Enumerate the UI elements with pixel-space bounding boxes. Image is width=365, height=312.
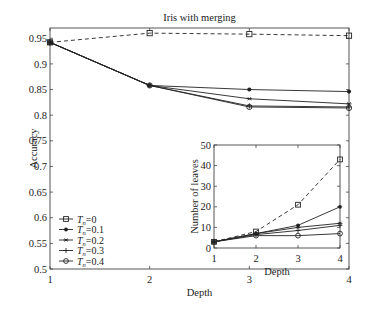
series-t-n-0-4 bbox=[47, 40, 351, 111]
chart-title: Iris with merging bbox=[163, 12, 236, 23]
x-tick-label: 4 bbox=[337, 253, 343, 264]
series-t-n-0 bbox=[47, 31, 351, 45]
y-tick-label: 0.8 bbox=[34, 110, 47, 121]
star-marker-icon bbox=[247, 87, 251, 91]
y-tick-label: 0.55 bbox=[29, 238, 47, 249]
y-tick-label: 40 bbox=[201, 160, 212, 171]
legend: Tn=0Tn=0.1Tn=0.2Tn=0.3Tn=0.4 bbox=[59, 214, 104, 268]
x-tick-label: 2 bbox=[253, 253, 258, 264]
x-axis-label: Depth bbox=[264, 266, 290, 277]
y-tick-label: 0.9 bbox=[34, 59, 47, 70]
accuracy-chart: 12340.50.550.60.650.70.750.80.850.90.95I… bbox=[0, 0, 365, 312]
y-tick-label: 0.85 bbox=[29, 84, 47, 95]
x-marker-icon bbox=[64, 239, 69, 242]
x-tick-label: 4 bbox=[346, 274, 352, 285]
plus-marker-icon bbox=[64, 248, 69, 253]
x-tick-label: 3 bbox=[295, 253, 300, 264]
star-marker-icon bbox=[338, 205, 342, 209]
y-tick-label: 10 bbox=[201, 222, 212, 233]
y-axis-label: Number of leaves bbox=[189, 159, 200, 234]
y-tick-label: 50 bbox=[201, 140, 212, 151]
y-tick-label: 20 bbox=[201, 201, 212, 212]
x-axis-label: Depth bbox=[187, 287, 213, 298]
series-t-n-0-1 bbox=[48, 40, 351, 93]
legend-item-label: Tn=0.4 bbox=[77, 256, 104, 268]
x-marker-icon bbox=[247, 97, 252, 100]
x-tick-label: 2 bbox=[147, 274, 152, 285]
star-marker-icon bbox=[64, 228, 68, 232]
y-tick-label: 0.6 bbox=[34, 212, 47, 223]
y-tick-label: 0 bbox=[206, 243, 211, 254]
y-tick-label: 0.5 bbox=[34, 264, 47, 275]
x-tick-label: 3 bbox=[247, 274, 252, 285]
y-axis-label: Accuracy bbox=[28, 128, 39, 169]
series-t-n-0-3 bbox=[47, 40, 351, 110]
y-tick-label: 0.95 bbox=[29, 33, 47, 44]
inset-leaves-plot: 123401020304050DepthNumber of leaves bbox=[189, 140, 343, 277]
star-marker-icon bbox=[347, 90, 351, 94]
x-tick-label: 1 bbox=[47, 274, 52, 285]
x-tick-label: 1 bbox=[211, 253, 216, 264]
y-tick-label: 30 bbox=[201, 181, 212, 192]
y-tick-label: 0.65 bbox=[29, 187, 47, 198]
